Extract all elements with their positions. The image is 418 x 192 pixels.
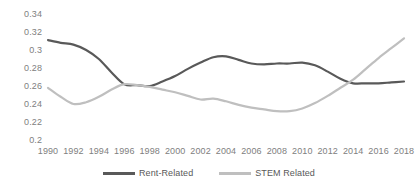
x-axis-tick-label: 2006 (241, 146, 261, 156)
x-axis-tick-label: 2000 (165, 146, 185, 156)
y-axis-tick-label: 0.3 (29, 45, 42, 55)
legend-swatch-icon (103, 172, 135, 175)
x-axis-tick-label: 1990 (38, 146, 58, 156)
x-axis-tick-label: 2012 (317, 146, 337, 156)
line-chart: 0.340.320.30.280.260.240.220.2 199019921… (0, 0, 418, 192)
y-axis-tick-label: 0.26 (24, 81, 42, 91)
x-axis-tick-label: 2004 (216, 146, 236, 156)
y-axis-tick-label: 0.24 (24, 99, 42, 109)
y-axis-tick-label: 0.34 (24, 9, 42, 19)
y-axis-tick-label: 0.22 (24, 117, 42, 127)
legend-label: Rent-Related (139, 168, 193, 178)
x-axis-tick-label: 2008 (267, 146, 287, 156)
legend-item-stem-related[interactable]: STEM Related (219, 168, 315, 178)
y-axis-tick-label: 0.32 (24, 27, 42, 37)
x-axis-tick-label: 2002 (190, 146, 210, 156)
x-axis-tick-label: 2010 (292, 146, 312, 156)
x-axis-tick-label: 1996 (114, 146, 134, 156)
x-axis-tick-label: 1992 (63, 146, 83, 156)
x-axis-tick-label: 1994 (89, 146, 109, 156)
y-axis-tick-label: 0.2 (29, 135, 42, 145)
y-axis-tick-label: 0.28 (24, 63, 42, 73)
x-axis-tick-label: 1998 (139, 146, 159, 156)
legend-item-rent-related[interactable]: Rent-Related (103, 168, 193, 178)
x-axis-tick-label: 2014 (343, 146, 363, 156)
series-line-rent-related (48, 40, 404, 86)
series-line-stem-related (48, 38, 404, 111)
chart-legend: Rent-RelatedSTEM Related (0, 163, 418, 183)
x-axis-tick-label: 2016 (368, 146, 388, 156)
legend-swatch-icon (219, 172, 251, 175)
x-axis-tick-label: 2018 (394, 146, 414, 156)
legend-label: STEM Related (255, 168, 315, 178)
